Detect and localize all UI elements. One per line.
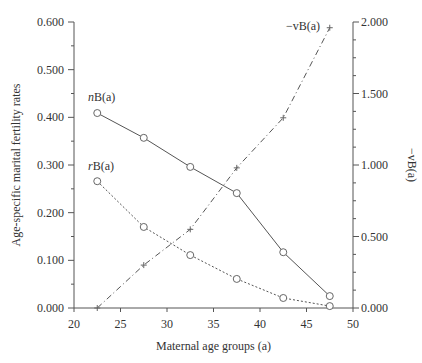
x-tick-label: 45 [301, 317, 313, 331]
y-tick-label: 0.200 [37, 206, 64, 220]
y-tick-label: 0.000 [37, 301, 64, 315]
x-axis-title: Maternal age groups (a) [156, 339, 271, 353]
y2-tick-label: 1.000 [361, 158, 388, 172]
series-label-vB: −vB(a) [286, 19, 320, 33]
circle-marker [140, 223, 147, 230]
circle-marker [326, 303, 333, 310]
y-tick-label: 0.100 [37, 253, 64, 267]
y2-tick-label: 0.500 [361, 230, 388, 244]
series-layer [94, 25, 334, 311]
x-tick-label: 35 [208, 317, 220, 331]
circle-marker [280, 249, 287, 256]
series-label-rB: rB(a) [88, 159, 114, 173]
circle-marker [280, 294, 287, 301]
circle-marker [326, 293, 333, 300]
y2-axis-title: −vB(a) [405, 148, 419, 182]
y-axis-title: Age-specific marital fertility rates [9, 83, 23, 246]
circle-marker [94, 110, 101, 117]
x-tick-label: 30 [161, 317, 173, 331]
series-line [97, 181, 330, 306]
series-line [97, 28, 330, 308]
y2-tick-label: 1.500 [361, 87, 388, 101]
circle-marker [94, 178, 101, 185]
circle-marker [140, 134, 147, 141]
circle-marker [187, 252, 194, 259]
y2-tick-label: 0.000 [361, 301, 388, 315]
x-tick-label: 20 [68, 317, 80, 331]
fertility-chart: 0.0000.1000.2000.3000.4000.5000.6000.000… [0, 0, 422, 363]
label-rest: B(a) [94, 90, 115, 104]
x-tick-label: 50 [347, 317, 359, 331]
labels-layer: Maternal age groups (a)Age-specific mari… [9, 19, 419, 353]
series-line [97, 113, 330, 296]
circle-marker [233, 190, 240, 197]
label-rest: B(a) [93, 159, 114, 173]
y-tick-label: 0.300 [37, 158, 64, 172]
axes: 0.0000.1000.2000.3000.4000.5000.6000.000… [37, 15, 388, 331]
series-label-nB: nB(a) [88, 90, 115, 104]
y2-tick-label: 2.000 [361, 15, 388, 29]
circle-marker [233, 275, 240, 282]
x-tick-label: 25 [115, 317, 127, 331]
y-tick-label: 0.500 [37, 63, 64, 77]
circle-marker [187, 163, 194, 170]
x-tick-label: 40 [254, 317, 266, 331]
y-tick-label: 0.600 [37, 15, 64, 29]
y-tick-label: 0.400 [37, 110, 64, 124]
